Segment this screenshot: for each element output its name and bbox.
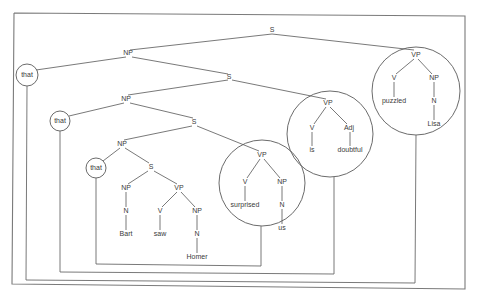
node-vp-puzzled: VP	[411, 51, 421, 58]
node-s2: S	[227, 73, 232, 80]
node-v-is: V	[310, 124, 315, 131]
syntax-tree-diagram: S NP that S NP that S NP that S NP N Bar…	[0, 0, 479, 308]
node-v-saw: V	[158, 207, 163, 214]
node-v-surprised: V	[243, 178, 248, 185]
node-that2: that	[54, 117, 66, 124]
node-that1: that	[21, 71, 33, 78]
node-s4: S	[149, 163, 154, 170]
node-n-us: N	[279, 201, 284, 208]
node-np-homer: NP	[192, 207, 202, 214]
node-that3: that	[90, 164, 102, 171]
word-us: us	[278, 224, 286, 231]
word-surprised: surprised	[231, 201, 260, 209]
vp-puzzled-circle	[372, 47, 460, 135]
word-saw: saw	[154, 230, 167, 237]
node-n-homer: N	[194, 230, 199, 237]
node-v-puzzled: V	[392, 74, 397, 81]
node-vp-doubtful: VP	[323, 99, 333, 106]
word-doubtful: doubtful	[338, 146, 363, 153]
node-np3: NP	[117, 140, 127, 147]
node-n-lisa: N	[431, 97, 436, 104]
word-homer: Homer	[186, 253, 208, 260]
node-n-bart: N	[123, 207, 128, 214]
outer-frame	[12, 13, 465, 289]
word-bart: Bart	[120, 230, 133, 237]
node-np1: NP	[123, 49, 133, 56]
link-that3-vp-surprised	[96, 178, 261, 266]
link-that1-vp-puzzled	[26, 86, 416, 283]
node-s3: S	[192, 118, 197, 125]
word-lisa: Lisa	[428, 120, 441, 127]
node-np-lisa: NP	[429, 74, 439, 81]
node-np-bart: NP	[121, 184, 131, 191]
word-puzzled: puzzled	[382, 97, 406, 105]
node-vp-saw: VP	[174, 184, 184, 191]
node-root-s: S	[270, 26, 275, 33]
node-np2: NP	[121, 95, 131, 102]
node-vp-surprised: VP	[257, 151, 267, 158]
node-adj: Adj	[344, 124, 355, 132]
node-np-us: NP	[277, 178, 287, 185]
word-is: is	[309, 146, 315, 153]
